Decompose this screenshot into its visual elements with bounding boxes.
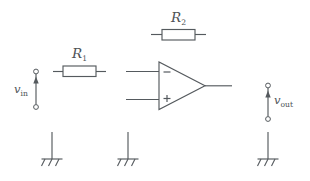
ground-left [42,132,63,166]
r1-body [63,66,96,77]
ground-left-hatch-1 [42,159,46,166]
opamp-body [159,62,205,110]
ground-right-hatch-1 [258,159,262,166]
ground-left-hatch-2 [49,159,53,166]
ground-right [258,132,279,166]
ground-middle-hatch-1 [118,159,122,166]
ground-right-hatch-3 [272,159,276,166]
resistor-r2: R2 [151,9,206,40]
ground-middle-hatch-3 [132,159,136,166]
r2-label: R2 [170,9,186,27]
vin-label: vin [14,82,28,98]
vout-arrow-head [265,91,270,98]
ground-middle [118,132,139,166]
vout-label: vout [274,93,293,109]
vin-terminal-bottom [34,105,39,110]
source-vout: vout [265,83,293,121]
r1-label: R1 [71,45,87,63]
ground-middle-hatch-2 [125,159,129,166]
vout-terminal-top [266,83,271,88]
circuit-diagram: R2 vin R1 [0,0,310,181]
source-vin: vin [14,69,39,109]
vout-terminal-bottom [266,117,271,122]
vin-terminal-top [34,69,39,74]
vin-arrow-head [33,77,38,84]
ground-right-hatch-2 [265,159,269,166]
r2-body [162,30,195,41]
opamp [126,62,232,110]
resistor-r1: R1 [53,45,106,77]
ground-left-hatch-3 [56,159,60,166]
